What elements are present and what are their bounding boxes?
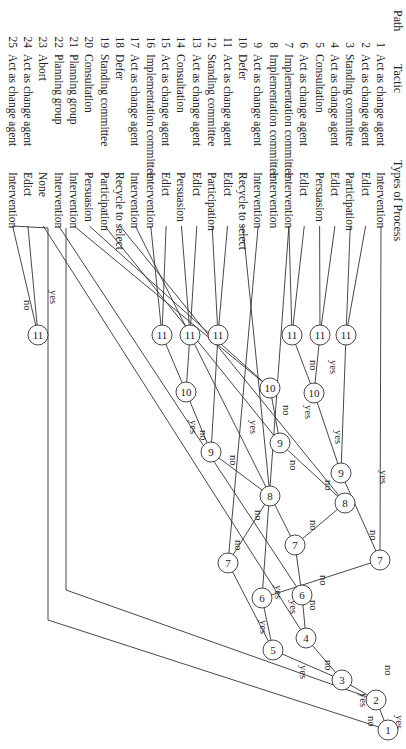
row-path-number: 14	[175, 37, 187, 49]
node-label: 6	[259, 592, 265, 604]
row-tactic: Standing committee	[205, 54, 218, 146]
decision-node-11: 11	[336, 325, 356, 345]
edge-label-no: no	[368, 530, 379, 541]
row-path-number: 24	[22, 37, 34, 49]
decision-node-8: 8	[335, 493, 355, 513]
decision-tree-diagram: Path Tactic Types of Process 1Act as cha…	[0, 0, 406, 749]
node-label: 11	[33, 329, 44, 341]
row-path-number: 12	[206, 37, 218, 49]
row-path-number: 17	[129, 37, 141, 49]
node-label: 11	[213, 329, 224, 341]
row-path-number: 1	[375, 42, 387, 48]
tree-edge	[212, 226, 218, 335]
row-process-type: Edict	[298, 172, 310, 197]
row-process-type: Edict	[191, 172, 203, 197]
edge-label-no: no	[233, 540, 244, 551]
row-path-number: 9	[252, 42, 264, 48]
row-path-number: 6	[298, 42, 310, 48]
row-process-type: None	[37, 172, 49, 197]
row-path-number: 3	[344, 42, 356, 48]
row-path-number: 10	[237, 37, 249, 49]
edge-label-no: no	[323, 480, 334, 491]
tree-edge	[74, 226, 270, 388]
tree-edge	[289, 226, 292, 335]
edge-label-yes: yes	[48, 290, 59, 304]
node-label: 5	[270, 644, 276, 656]
row-process-type: Persuasion	[314, 172, 326, 222]
edge-label-yes: yes	[378, 470, 389, 484]
row-process-type: Intervention	[53, 172, 65, 228]
row-process-type: Participation	[98, 172, 111, 231]
row-process-type: Intervention	[68, 172, 80, 228]
decision-node-10: 10	[260, 378, 280, 398]
node-label: 4	[303, 632, 309, 644]
decision-node-2: 2	[366, 690, 386, 710]
row-tactic: Implementation committee	[144, 54, 157, 178]
tree-edge	[43, 226, 306, 638]
node-label: 2	[373, 694, 379, 706]
node-label: 7	[225, 557, 231, 569]
edge-label-no: no	[253, 510, 264, 521]
node-label: 8	[342, 497, 348, 509]
row-tactic: Act as change agent	[297, 54, 310, 147]
row-process-type: Intervention	[129, 172, 141, 228]
decision-node-7: 7	[218, 553, 238, 573]
edge-label-no: no	[318, 575, 329, 586]
row-process-type: Intervention	[252, 172, 264, 228]
tree-edge	[346, 226, 350, 335]
row-process-type: Intervention	[375, 172, 387, 228]
decision-node-11: 11	[152, 325, 172, 345]
row-process-type: Intervention	[7, 172, 19, 228]
tree-edge	[151, 226, 162, 335]
decision-node-11: 11	[180, 325, 200, 345]
row-path-number: 20	[83, 37, 95, 49]
row-tactic: Abort	[37, 54, 49, 82]
edge-label-no: no	[308, 520, 319, 531]
row-path-number: 22	[53, 37, 65, 49]
decision-node-10: 10	[304, 383, 324, 403]
row-tactic: Act as change agent	[374, 54, 387, 147]
edge-label-no: no	[323, 660, 334, 671]
decision-node-6: 6	[252, 588, 272, 608]
row-process-type: Participation	[343, 172, 356, 231]
node-label: 9	[208, 446, 214, 458]
node-label: 11	[287, 329, 298, 341]
row-path-number: 2	[360, 42, 372, 48]
edge-label-yes: yes	[333, 430, 344, 444]
tree-edge	[28, 226, 38, 335]
edge-label-no: no	[281, 405, 292, 416]
edge-label-yes: yes	[248, 420, 259, 434]
node-label: 9	[338, 467, 344, 479]
edge-label-no: no	[198, 430, 209, 441]
row-process-type: Edict	[160, 172, 172, 197]
row-tactic: Standing committee	[98, 54, 111, 146]
tree-edge	[292, 226, 304, 335]
tree-edge	[211, 452, 270, 496]
decision-node-4: 4	[296, 628, 316, 648]
row-process-type: Edict	[222, 172, 234, 197]
node-label: 3	[339, 674, 345, 686]
tree-edge	[228, 496, 270, 563]
row-tactic: Act as change agent	[6, 54, 19, 147]
header-tactic: Tactic	[391, 64, 405, 93]
row-tactic: Defer	[114, 54, 126, 80]
edge-label-yes: yes	[298, 665, 309, 679]
edge-label-yes: yes	[273, 585, 284, 599]
row-process-type: Intervention	[145, 172, 157, 228]
row-path-number: 13	[191, 37, 203, 49]
decision-node-11: 11	[208, 325, 228, 345]
edge-label-no: no	[228, 455, 239, 466]
tree-edge	[341, 473, 380, 560]
tree-edges	[13, 226, 388, 730]
tree-nodes: 12345667778899910101011111111111111	[28, 325, 398, 740]
decision-node-9: 9	[331, 463, 351, 483]
row-tactic: Act as change agent	[159, 54, 172, 147]
node-label: 11	[341, 329, 352, 341]
node-label: 11	[315, 329, 326, 341]
row-path-number: 18	[114, 37, 126, 49]
tree-edge	[346, 226, 366, 335]
row-tactic: Standing committee	[343, 54, 356, 146]
node-label: 11	[157, 329, 168, 341]
tree-edge	[59, 226, 302, 595]
row-tactic: Act as change agent	[21, 54, 34, 147]
